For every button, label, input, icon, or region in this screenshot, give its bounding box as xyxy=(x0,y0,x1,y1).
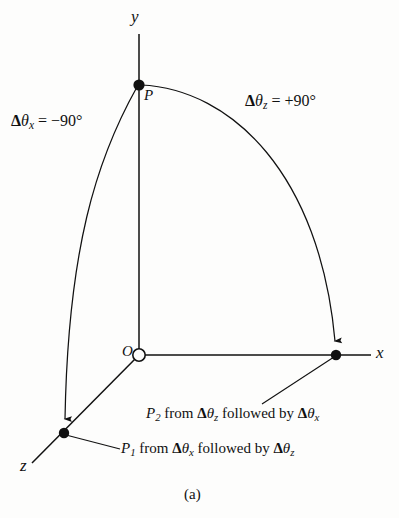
theta-symbol-x: θ xyxy=(21,112,29,129)
leader-line-p2 xyxy=(262,357,334,404)
annotation-delta-theta-x: Δθx = −90° xyxy=(11,113,82,132)
caption-point-p1: P1 from Δθx followed by Δθz xyxy=(121,441,294,458)
leader-line-p1 xyxy=(66,435,120,449)
arc-theta-x-path xyxy=(65,87,137,419)
caption-p2-point: P xyxy=(146,405,155,421)
origin-marker xyxy=(133,349,145,361)
point-p2-marker xyxy=(331,350,341,360)
caption-p2-word-from: from xyxy=(161,405,198,421)
annotation-delta-theta-z: Δθz = +90° xyxy=(245,93,316,112)
point-p1-marker xyxy=(59,428,69,438)
caption-p2-delta-1: Δ xyxy=(197,405,206,421)
point-p-marker xyxy=(133,79,144,90)
caption-p2-theta-2: θ xyxy=(307,405,314,421)
y-axis-label: y xyxy=(131,8,139,25)
point-p-label: P xyxy=(144,88,153,103)
caption-p2-delta-2: Δ xyxy=(298,405,307,421)
caption-p1-delta-1: Δ xyxy=(172,440,181,456)
caption-p1-point: P xyxy=(121,440,130,456)
delta-symbol-x: Δ xyxy=(11,112,21,129)
figure-root: y x z O P Δθx = −90° Δθz = +90° P2 from … xyxy=(0,0,399,518)
origin-label: O xyxy=(122,344,133,359)
delta-symbol-z: Δ xyxy=(245,92,255,109)
caption-p1-word-from: from xyxy=(136,440,173,456)
caption-p1-delta-2: Δ xyxy=(273,440,282,456)
caption-point-p2: P2 from Δθz followed by Δθx xyxy=(146,406,319,423)
angle-value-z: +90° xyxy=(284,92,315,109)
caption-p2-theta-1: θ xyxy=(207,405,214,421)
z-axis-label: z xyxy=(20,457,27,474)
caption-p1-word-followed: followed by xyxy=(194,440,274,456)
arc-theta-z-path xyxy=(141,85,335,341)
caption-p1-theta-2-subscript: z xyxy=(290,446,294,458)
figure-label: (a) xyxy=(184,487,201,502)
angle-value-x: −90° xyxy=(51,112,82,129)
x-axis-label: x xyxy=(376,344,384,361)
caption-p1-theta-1: θ xyxy=(182,440,189,456)
equals-sign-x: = xyxy=(34,112,51,129)
theta-symbol-z: θ xyxy=(255,92,263,109)
caption-p2-word-followed: followed by xyxy=(218,405,298,421)
caption-p2-theta-2-subscript: x xyxy=(315,411,320,423)
equals-sign-z: = xyxy=(267,92,284,109)
